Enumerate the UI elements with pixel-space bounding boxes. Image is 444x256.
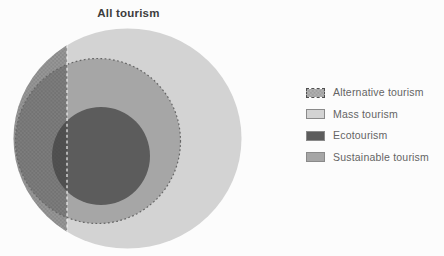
figure-title: All tourism [76, 7, 181, 19]
legend-swatch-mass [306, 109, 325, 119]
legend: Alternative tourismMass tourismEcotouris… [306, 87, 429, 173]
legend-label-sustainable: Sustainable tourism [333, 152, 429, 163]
legend-item-mass: Mass tourism [306, 109, 429, 120]
legend-swatch-alternative [306, 88, 325, 98]
legend-item-eco: Ecotourism [306, 130, 429, 141]
legend-label-mass: Mass tourism [333, 109, 398, 120]
tourism-venn-figure: All tourism Alternative tourismMass tour… [0, 0, 444, 256]
legend-item-sustainable: Sustainable tourism [306, 152, 429, 163]
legend-item-alternative: Alternative tourism [306, 87, 429, 98]
legend-swatch-sustainable [306, 152, 325, 162]
legend-label-eco: Ecotourism [333, 130, 388, 141]
legend-label-alternative: Alternative tourism [333, 87, 424, 98]
legend-swatch-eco [306, 131, 325, 141]
